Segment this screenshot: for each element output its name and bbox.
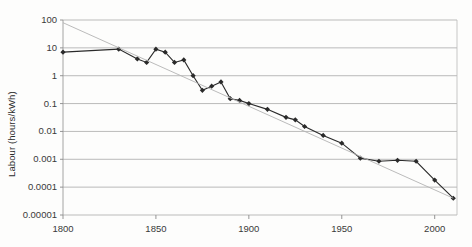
data-point-marker xyxy=(265,107,270,112)
y-axis-tick-label: 0.001 xyxy=(13,154,57,164)
series-line xyxy=(63,23,453,199)
chart-plot xyxy=(0,0,472,247)
y-axis-tick-label: 1 xyxy=(13,71,57,81)
data-point-marker xyxy=(209,84,214,89)
x-axis-tick-label: 1800 xyxy=(33,224,93,234)
data-point-marker xyxy=(395,158,400,163)
data-point-marker xyxy=(283,115,288,120)
data-point-marker xyxy=(218,79,223,84)
data-point-marker xyxy=(60,50,65,55)
y-axis-tick-label: 0.00001 xyxy=(13,210,57,220)
series-line xyxy=(63,49,453,198)
data-point-marker xyxy=(190,73,195,78)
data-point-marker xyxy=(200,88,205,93)
x-axis-tick-label: 1850 xyxy=(126,224,186,234)
y-axis-tick-label: 0.0001 xyxy=(13,182,57,192)
y-axis-tick-label: 0.01 xyxy=(13,126,57,136)
y-axis-tick-label: 100 xyxy=(13,15,57,25)
x-axis-tick-label: 1950 xyxy=(312,224,372,234)
x-axis-tick-label: 2000 xyxy=(405,224,465,234)
y-axis-tick-label: 0.1 xyxy=(13,99,57,109)
data-point-marker xyxy=(321,133,326,138)
x-axis-tick-label: 1900 xyxy=(219,224,279,234)
data-point-marker xyxy=(181,57,186,62)
chart-container: Labour (hours/kWh) 1001010.10.010.0010.0… xyxy=(0,0,472,247)
y-axis-tick-label: 10 xyxy=(13,43,57,53)
